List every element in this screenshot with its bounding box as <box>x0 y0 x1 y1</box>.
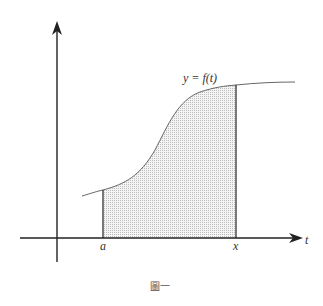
upper-bound-label: x <box>232 239 239 253</box>
figure-caption: 圖一 <box>150 281 170 292</box>
shaded-area-region <box>103 85 236 238</box>
area-under-curve-diagram: y = f(t) t a x 圖一 <box>0 0 323 306</box>
lower-bound-label: a <box>100 239 106 253</box>
curve-label: y = f(t) <box>182 71 217 85</box>
x-axis-label: t <box>305 233 309 247</box>
